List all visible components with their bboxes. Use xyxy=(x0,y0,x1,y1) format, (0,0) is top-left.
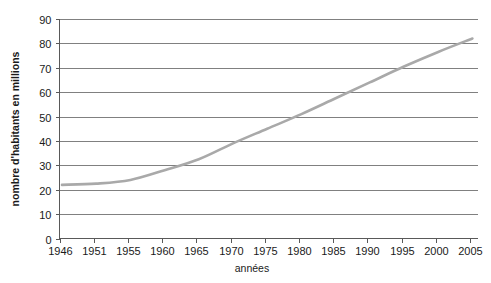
x-axis-ticks xyxy=(61,239,471,243)
y-tick-label: 40 xyxy=(39,136,51,148)
y-tick-label: 60 xyxy=(39,87,51,99)
x-axis-tick-labels: 1946195119551960196519701975198019851990… xyxy=(48,245,482,257)
x-tick-label: 1995 xyxy=(390,245,414,257)
y-tick-label: 10 xyxy=(39,209,51,221)
y-axis-title: nombre d'habitants en millions xyxy=(9,51,21,206)
x-tick-label: 1990 xyxy=(355,245,379,257)
x-tick-label: 1960 xyxy=(150,245,174,257)
x-tick-label: 1970 xyxy=(219,245,243,257)
x-tick-label: 2000 xyxy=(424,245,448,257)
population-series-line xyxy=(62,39,472,185)
x-tick-label: 1975 xyxy=(253,245,277,257)
y-tick-label: 20 xyxy=(39,185,51,197)
y-tick-label: 50 xyxy=(39,112,51,124)
y-tick-label: 90 xyxy=(39,14,51,26)
x-tick-label: 2005 xyxy=(458,245,482,257)
gridlines xyxy=(60,20,479,215)
population-line-chart: 0102030405060708090 19461951195519601965… xyxy=(0,0,491,283)
y-tick-label: 30 xyxy=(39,160,51,172)
y-tick-label: 70 xyxy=(39,63,51,75)
x-tick-label: 1980 xyxy=(287,245,311,257)
x-tick-label: 1951 xyxy=(82,245,106,257)
x-axis-title: années xyxy=(235,262,269,274)
x-tick-label: 1965 xyxy=(184,245,208,257)
x-tick-label: 1985 xyxy=(321,245,345,257)
chart-canvas: 0102030405060708090 19461951195519601965… xyxy=(0,0,491,283)
y-tick-label: 80 xyxy=(39,38,51,50)
x-tick-label: 1955 xyxy=(116,245,140,257)
y-axis-tick-labels: 0102030405060708090 xyxy=(39,14,51,246)
x-tick-label: 1946 xyxy=(48,245,72,257)
